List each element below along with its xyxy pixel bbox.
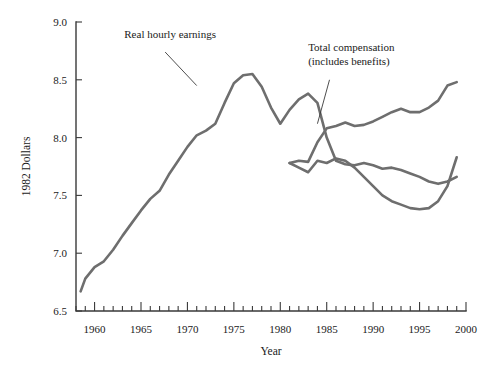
y-tick-label: 8.5 <box>53 74 67 86</box>
tick-marks <box>76 22 466 311</box>
annotations: Real hourly earningsTotal compensation(i… <box>124 28 395 124</box>
x-tick-label: 1960 <box>84 323 107 335</box>
y-tick-label: 7.5 <box>53 189 67 201</box>
annotation-label-total-compensation: (includes benefits) <box>308 55 390 68</box>
chart-container: 6.57.07.58.08.59.01960196519701975198019… <box>0 0 502 365</box>
x-tick-label: 1970 <box>176 323 199 335</box>
x-tick-label: 1975 <box>223 323 246 335</box>
line-chart: 6.57.07.58.08.59.01960196519701975198019… <box>0 0 502 365</box>
series-line <box>290 82 457 163</box>
x-tick-label: 1985 <box>316 323 339 335</box>
y-tick-label: 6.5 <box>53 305 67 317</box>
x-tick-label: 1995 <box>409 323 432 335</box>
y-tick-label: 9.0 <box>53 16 67 28</box>
x-tick-label: 1990 <box>362 323 385 335</box>
annotation-leader-total-compensation <box>317 80 329 124</box>
annotation-label-real-hourly-earnings: Real hourly earnings <box>124 28 216 40</box>
y-tick-label: 7.0 <box>53 247 67 259</box>
x-tick-label: 2000 <box>455 323 478 335</box>
data-series <box>81 74 457 291</box>
x-tick-label: 1980 <box>269 323 292 335</box>
annotation-leader-real-hourly-earnings <box>165 52 197 86</box>
series-line <box>81 74 457 291</box>
x-tick-label: 1965 <box>130 323 153 335</box>
annotation-label-total-compensation: Total compensation <box>308 41 395 53</box>
x-axis-title: Year <box>260 345 281 357</box>
y-axis-title: 1982 Dollars <box>20 136 32 196</box>
axes <box>76 22 466 311</box>
y-tick-label: 8.0 <box>53 132 67 144</box>
